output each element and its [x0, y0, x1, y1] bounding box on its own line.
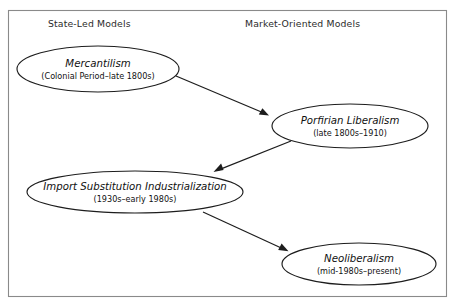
- node-porfirian-liberalism[interactable]: Porfirian Liberalism (late 1800s–1910): [272, 104, 428, 148]
- column-header-state-led: State-Led Models: [48, 18, 131, 29]
- node-period: (Colonial Period–late 1800s): [41, 71, 154, 81]
- node-title: Neoliberalism: [324, 253, 394, 264]
- node-title: Porfirian Liberalism: [301, 115, 400, 126]
- diagram-canvas: State-Led Models Market-Oriented Models …: [0, 0, 454, 307]
- node-mercantilism[interactable]: Mercantilism (Colonial Period–late 1800s…: [17, 46, 179, 92]
- node-period: (mid-1980s–present): [317, 266, 401, 276]
- node-ellipse-shape: [27, 171, 243, 213]
- economic-models-diagram: State-Led Models Market-Oriented Models …: [0, 0, 454, 307]
- node-ellipse-shape: [282, 243, 436, 285]
- node-period: (1930s–early 1980s): [94, 194, 177, 204]
- node-ellipse-shape: [17, 46, 179, 92]
- node-period: (late 1800s–1910): [313, 128, 387, 138]
- node-neoliberalism[interactable]: Neoliberalism (mid-1980s–present): [282, 243, 436, 285]
- node-import-substitution-industrialization[interactable]: Import Substitution Industrialization (1…: [27, 171, 243, 213]
- column-header-market-oriented: Market-Oriented Models: [245, 18, 360, 29]
- node-ellipse-shape: [272, 104, 428, 148]
- node-title: Mercantilism: [65, 58, 130, 69]
- node-title: Import Substitution Industrialization: [43, 181, 227, 192]
